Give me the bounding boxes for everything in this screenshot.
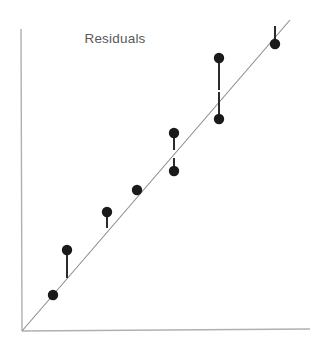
chart-title: Residuals — [84, 31, 145, 46]
data-point — [102, 207, 112, 217]
y-axis — [21, 29, 22, 331]
data-point — [132, 185, 142, 195]
residual-plot-canvas: Residuals — [0, 0, 321, 352]
regression-line — [22, 20, 290, 331]
data-point — [169, 128, 179, 138]
data-point — [62, 245, 72, 255]
residuals-figure: Residuals — [0, 0, 321, 352]
x-axis — [22, 329, 310, 331]
data-point — [48, 290, 58, 300]
residual-segments-group — [67, 26, 275, 278]
data-point — [214, 53, 224, 63]
data-point — [214, 114, 224, 124]
data-point — [169, 166, 179, 176]
axes-group — [21, 29, 310, 331]
data-point — [270, 39, 280, 49]
regression-line-group — [22, 20, 290, 331]
